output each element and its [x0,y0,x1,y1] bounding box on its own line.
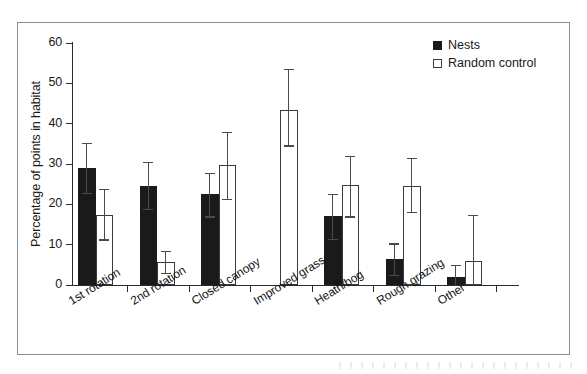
bar-chart-plot: Percentage of points in habitat 01020304… [0,0,587,374]
y-tick-label-20: 20 [36,196,62,210]
error-stem-0-1 [104,189,105,239]
error-cap-upper-5-1 [407,158,417,159]
x-tick-3 [312,286,313,292]
error-cap-upper-1-1 [161,251,171,252]
error-stem-5-0 [394,243,395,274]
error-cap-upper-6-1 [468,215,478,216]
error-stem-1-1 [165,251,166,273]
error-cap-lower-5-1 [407,212,417,213]
error-cap-lower-2-0 [205,216,215,217]
chart-legend: Nests Random control [433,36,536,72]
legend-item-nests: Nests [433,36,536,54]
error-cap-lower-0-0 [82,193,92,194]
y-tick-label-30: 30 [36,156,62,170]
y-tick-0 [66,285,73,286]
legend-label-random-control: Random control [448,54,536,72]
error-cap-lower-0-1 [99,239,109,240]
y-tick-40 [66,123,73,124]
error-cap-upper-6-0 [451,265,461,266]
error-stem-5-1 [411,158,412,212]
error-cap-upper-4-1 [345,156,355,157]
y-tick-label-40: 40 [36,116,62,130]
error-stem-0-0 [86,143,87,193]
y-tick-10 [66,244,73,245]
y-tick-60 [66,43,73,44]
error-stem-2-1 [227,132,228,199]
filled-square-icon [433,41,442,50]
error-cap-upper-4-0 [328,194,338,195]
x-tick-5 [435,286,436,292]
error-cap-upper-0-1 [99,189,109,190]
error-cap-upper-3-1 [284,69,294,70]
error-cap-upper-0-0 [82,143,92,144]
legend-label-nests: Nests [448,36,480,54]
x-tick-6 [496,286,497,292]
error-stem-2-0 [209,173,210,217]
error-cap-lower-5-0 [389,275,399,276]
open-square-icon [433,59,442,68]
legend-item-random-control: Random control [433,54,536,72]
scan-artifact [330,362,580,369]
y-tick-label-50: 50 [36,75,62,89]
error-stem-1-0 [148,162,149,209]
x-tick-4 [373,286,374,292]
y-tick-50 [66,83,73,84]
y-tick-label-0: 0 [36,277,62,291]
error-cap-lower-4-1 [345,216,355,217]
error-cap-lower-1-0 [143,209,153,210]
y-tick-label-10: 10 [36,237,62,251]
error-stem-3-1 [288,69,289,145]
error-stem-4-0 [332,194,333,238]
error-stem-6-1 [473,215,474,285]
y-tick-30 [66,164,73,165]
x-tick-2 [250,286,251,292]
error-cap-upper-2-1 [222,132,232,133]
error-stem-4-1 [350,156,351,217]
x-tick-1 [189,286,190,292]
error-cap-lower-3-1 [284,145,294,146]
error-cap-upper-5-0 [389,243,399,244]
x-tick-0 [127,286,128,292]
error-cap-upper-2-0 [205,173,215,174]
error-cap-upper-1-0 [143,162,153,163]
y-tick-label-60: 60 [36,35,62,49]
error-cap-lower-4-0 [328,239,338,240]
error-cap-lower-2-1 [222,199,232,200]
y-tick-20 [66,204,73,205]
